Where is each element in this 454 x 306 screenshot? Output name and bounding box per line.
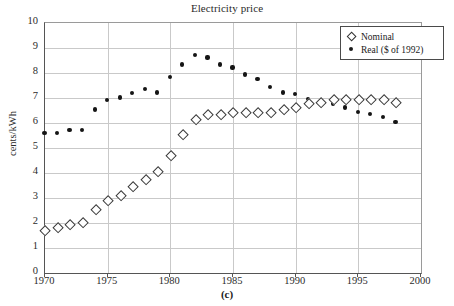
x-tick-mark-2000 xyxy=(420,273,421,277)
legend-label-real: Real ($ of 1992) xyxy=(359,45,424,55)
open-diamond-icon xyxy=(345,30,359,43)
filled-circle-icon xyxy=(345,43,359,56)
y-tick-label-9: 9 xyxy=(12,40,38,51)
x-tick-mark-1990 xyxy=(295,273,296,277)
x-tick-mark-1995 xyxy=(357,273,358,277)
x-tick-mark-1985 xyxy=(232,273,233,277)
x-tick-mark-1975 xyxy=(107,273,108,277)
legend-item-nominal: Nominal xyxy=(345,30,439,43)
y-tick-label-8: 8 xyxy=(12,65,38,76)
figure-panel-c: Electricity price 012345678910 197019751… xyxy=(0,0,454,306)
legend-item-real: Real ($ of 1992) xyxy=(345,43,439,56)
x-tick-mark-1970 xyxy=(44,273,45,277)
legend-label-nominal: Nominal xyxy=(359,32,394,42)
chart-legend: Nominal Real ($ of 1992) xyxy=(340,26,444,60)
y-tick-label-2: 2 xyxy=(12,215,38,226)
y-tick-label-1: 1 xyxy=(12,240,38,251)
panel-caption: (c) xyxy=(0,288,454,300)
y-axis-title: cents/kWh xyxy=(7,89,18,179)
y-tick-label-3: 3 xyxy=(12,190,38,201)
x-tick-mark-1980 xyxy=(169,273,170,277)
y-tick-label-10: 10 xyxy=(12,15,38,26)
